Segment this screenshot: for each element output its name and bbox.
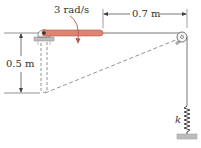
angular-velocity-label: 3 rad/s (54, 4, 89, 15)
dashed-rod-position (41, 38, 47, 93)
spring (184, 106, 190, 134)
horizontal-distance-label: 0.7 m (132, 8, 161, 19)
vertical-dimension: 0.5 m (6, 33, 35, 93)
rotating-rod (42, 30, 103, 36)
pivot-pin-icon (42, 31, 46, 35)
vertical-distance-label: 0.5 m (6, 58, 35, 69)
mechanism-diagram: 0.5 m 3 rad/s 0.7 m (0, 0, 201, 148)
pulley (176, 32, 187, 44)
spring-constant-label: k (175, 114, 181, 125)
ground-support (177, 134, 197, 139)
dashed-cable (45, 39, 178, 93)
horizontal-dimension: 0.7 m (103, 8, 187, 28)
